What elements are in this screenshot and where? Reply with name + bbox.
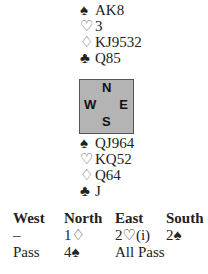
club-icon: ♣ [80,50,95,66]
north-diamonds: ♢KJ9532 [80,34,142,50]
auction-row: – 1♢ 2♡(i) 2♠ [13,227,208,244]
north-spades-cards: AK8 [95,2,124,18]
club-icon: ♣ [80,183,95,199]
heart-icon: ♡ [80,18,95,34]
bid: All Pass [115,244,166,261]
north-clubs: ♣Q85 [80,50,142,66]
compass-north: N [102,80,111,95]
header-north: North [64,210,115,227]
south-clubs-cards: J [95,183,101,199]
auction-row: Pass 4♠ All Pass [13,244,208,261]
auction-header: West North East South [13,210,208,227]
bid: 2♡(i) [115,227,166,244]
north-hand: ♠AK8 ♡3 ♢KJ9532 ♣Q85 [80,2,142,66]
header-west: West [13,210,64,227]
south-hearts-cards: KQ52 [95,151,132,167]
spade-icon: ♠ [80,2,95,18]
bid: 1♢ [64,227,115,244]
diamond-icon: ♢ [80,167,95,183]
south-diamonds-cards: Q64 [95,167,121,183]
south-clubs: ♣J [80,183,134,199]
bid [166,244,208,261]
bid: Pass [13,244,64,261]
north-spades: ♠AK8 [80,2,142,18]
south-spades-cards: QJ964 [95,135,134,151]
south-hearts: ♡KQ52 [80,151,134,167]
compass-box: N W E S [79,79,134,134]
south-spades: ♠QJ964 [80,135,134,151]
auction-table: West North East South – 1♢ 2♡(i) 2♠ Pass… [13,210,208,261]
header-east: East [115,210,166,227]
spade-icon: ♠ [80,135,95,151]
south-hand: ♠QJ964 ♡KQ52 ♢Q64 ♣J [80,135,134,199]
bid: 4♠ [64,244,115,261]
compass-east: E [119,97,128,112]
north-diamonds-cards: KJ9532 [95,34,142,50]
north-hearts: ♡3 [80,18,142,34]
north-hearts-cards: 3 [95,18,103,34]
compass-south: S [102,114,111,129]
compass-west: W [84,97,96,112]
diamond-icon: ♢ [80,34,95,50]
bid: 2♠ [166,227,208,244]
heart-icon: ♡ [80,151,95,167]
south-diamonds: ♢Q64 [80,167,134,183]
header-south: South [166,210,208,227]
bid: – [13,227,64,244]
north-clubs-cards: Q85 [95,50,121,66]
